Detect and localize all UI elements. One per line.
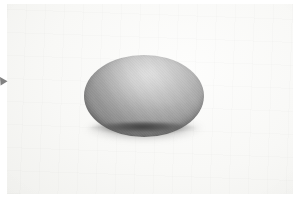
dome-base-rim [87,122,199,138]
left-edge-arrow-mark-icon [0,77,9,86]
photograph [0,0,298,199]
photo-plate [7,4,293,194]
